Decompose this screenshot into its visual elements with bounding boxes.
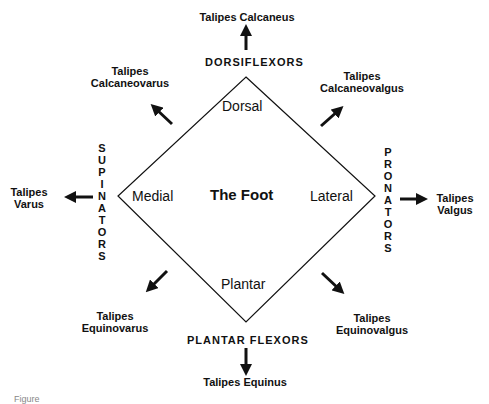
label-dorsiflexors: DORSIFLEXORS — [205, 56, 304, 68]
deformity-equinovalgus-line2: Equinovalgus — [322, 324, 422, 336]
arrow-down-right — [322, 273, 340, 290]
arrow-up-right — [321, 110, 339, 126]
arrow-up-left — [155, 108, 172, 124]
deformity-varus-line1: Talipes — [4, 186, 54, 198]
deformity-equinovarus: Talipes Equinovarus — [70, 310, 160, 334]
deformity-valgus-line1: Talipes — [430, 192, 480, 204]
deformity-calcaneus: Talipes Calcaneus — [192, 11, 302, 23]
deformity-valgus-line2: Valgus — [430, 204, 480, 216]
deformity-equinus: Talipes Equinus — [190, 376, 300, 388]
deformity-calcaneovarus: Talipes Calcaneovarus — [85, 65, 175, 89]
inner-label-medial: Medial — [132, 188, 173, 204]
deformity-calcaneovalgus: Talipes Calcaneovalgus — [312, 70, 412, 94]
label-plantar-flexors: PLANTAR FLEXORS — [187, 334, 309, 346]
figure-caption: Figure — [14, 394, 40, 404]
deformity-calcaneovarus-line2: Calcaneovarus — [85, 77, 175, 89]
deformity-equinovalgus: Talipes Equinovalgus — [322, 312, 422, 336]
deformity-equinovarus-line2: Equinovarus — [70, 322, 160, 334]
label-supinators: SUPINATORS — [97, 142, 107, 262]
deformity-calcaneovalgus-line1: Talipes — [312, 70, 412, 82]
center-label: The Foot — [210, 186, 273, 203]
inner-label-lateral: Lateral — [310, 188, 353, 204]
deformity-calcaneovalgus-line2: Calcaneovalgus — [312, 82, 412, 94]
deformity-varus-line2: Varus — [4, 198, 54, 210]
deformity-equinovalgus-line1: Talipes — [322, 312, 422, 324]
deformity-calcaneovarus-line1: Talipes — [85, 65, 175, 77]
inner-label-dorsal: Dorsal — [222, 98, 262, 114]
deformity-varus: Talipes Varus — [4, 186, 54, 210]
deformity-equinovarus-line1: Talipes — [70, 310, 160, 322]
deformity-valgus: Talipes Valgus — [430, 192, 480, 216]
inner-label-plantar: Plantar — [221, 276, 265, 292]
label-pronators: PRONATORS — [383, 146, 393, 254]
arrow-down-left — [150, 271, 167, 288]
